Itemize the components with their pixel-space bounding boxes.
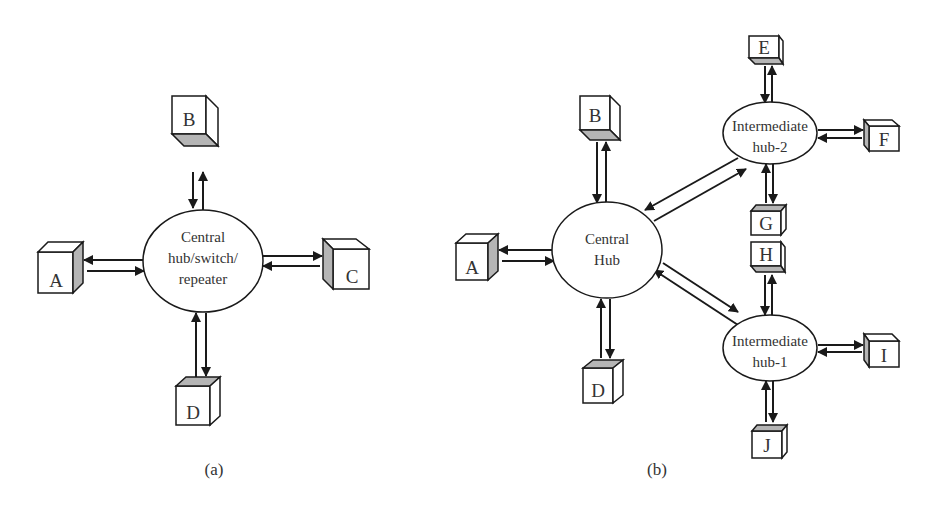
svg-text:B: B xyxy=(183,109,196,130)
link-hub2-e xyxy=(765,66,772,103)
diagram-a: Central hub/switch/ repeater B A C xyxy=(38,96,369,479)
svg-text:A: A xyxy=(49,270,63,291)
hub-label-line-2: hub/switch/ xyxy=(168,250,239,266)
link-b-a xyxy=(499,250,554,261)
svg-text:I: I xyxy=(881,345,887,366)
link-b-b xyxy=(597,142,606,203)
svg-text:D: D xyxy=(591,380,605,401)
link-a-d xyxy=(196,313,206,377)
node-a-d: D xyxy=(176,377,220,425)
hub-label-line-1: Central xyxy=(181,229,225,245)
link-hub1-i xyxy=(818,345,863,352)
link-hub1-j xyxy=(766,381,773,422)
svg-text:J: J xyxy=(763,435,770,456)
central-hub-label-line-2: Hub xyxy=(594,252,620,268)
caption-b: (b) xyxy=(647,460,667,479)
hub2-label-line-1: Intermediate xyxy=(732,118,808,134)
central-hub-b: Central Hub xyxy=(552,202,662,298)
caption-a: (a) xyxy=(205,460,224,479)
link-hub2-f xyxy=(818,130,863,138)
link-central-hub2 xyxy=(645,158,746,221)
link-central-hub1 xyxy=(654,263,738,325)
intermediate-hub-2: Intermediate hub-2 xyxy=(723,102,817,164)
node-a-b: B xyxy=(172,96,218,146)
diagram-b: Central Hub Intermediate hub-2 Intermedi… xyxy=(456,36,899,479)
link-hub2-g xyxy=(766,164,773,203)
svg-text:F: F xyxy=(879,129,890,150)
link-b-d xyxy=(601,299,610,358)
hub-label-line-3: repeater xyxy=(179,271,227,287)
svg-text:E: E xyxy=(758,37,770,58)
hub1-label-line-2: hub-1 xyxy=(753,354,788,370)
node-b-g: G xyxy=(751,205,786,235)
central-hub-a: Central hub/switch/ repeater xyxy=(143,210,263,312)
link-a-a xyxy=(84,260,144,271)
intermediate-hub-1: Intermediate hub-1 xyxy=(723,315,817,381)
node-a-c: C xyxy=(323,239,369,289)
star-topology-figure: Central hub/switch/ repeater B A C xyxy=(0,0,939,511)
link-hub1-h xyxy=(765,275,772,315)
central-hub-label-line-1: Central xyxy=(585,231,629,247)
node-a-a: A xyxy=(38,242,83,293)
node-b-a: A xyxy=(456,234,498,280)
node-b-e: E xyxy=(749,36,783,64)
node-b-d: D xyxy=(583,360,623,403)
svg-text:G: G xyxy=(759,213,773,234)
node-b-i: I xyxy=(864,334,899,367)
svg-text:D: D xyxy=(186,402,200,423)
svg-text:C: C xyxy=(346,266,359,287)
svg-text:B: B xyxy=(589,105,602,126)
node-b-j: J xyxy=(752,425,787,458)
node-b-b: B xyxy=(580,96,620,140)
hub1-label-line-1: Intermediate xyxy=(732,333,808,349)
node-b-f: F xyxy=(864,120,899,151)
link-a-b xyxy=(193,172,203,210)
svg-text:A: A xyxy=(465,257,479,278)
node-b-h: H xyxy=(751,242,785,272)
link-a-c xyxy=(263,256,322,266)
hub2-label-line-2: hub-2 xyxy=(753,139,788,155)
svg-text:H: H xyxy=(759,244,773,265)
